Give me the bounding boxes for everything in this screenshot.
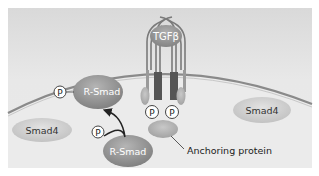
free-phosphate: P <box>92 126 104 138</box>
svg-text:P: P <box>149 108 155 118</box>
smad4-left-label: Smad4 <box>25 125 58 136</box>
r-smad-upper-phosphate: P <box>54 86 66 98</box>
anchoring-protein-label: Anchoring protein <box>187 145 272 156</box>
receptor-domain-left <box>141 87 150 105</box>
r-smad-upper-label: R-Smad <box>84 86 121 97</box>
tgf-beta-label: TGFβ <box>152 31 179 42</box>
svg-text:P: P <box>95 128 101 138</box>
r-smad-lower-label: R-Smad <box>110 146 147 157</box>
svg-text:P: P <box>57 88 63 98</box>
receptor-phosphate-right: P <box>166 106 179 119</box>
receptor-kinase-left <box>154 72 162 100</box>
tgf-beta-signaling-diagram: TGFβ P P Anchoring protein R-Smad P R-Sm… <box>0 0 319 176</box>
receptor-phosphate-left: P <box>146 106 159 119</box>
smad4-right-label: Smad4 <box>245 105 278 116</box>
svg-text:P: P <box>169 108 175 118</box>
receptor-domain-right <box>177 87 186 105</box>
anchoring-protein <box>148 120 178 138</box>
